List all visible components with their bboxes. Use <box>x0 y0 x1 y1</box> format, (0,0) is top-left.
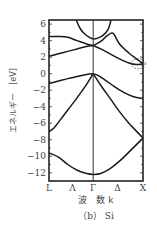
k-point-label: L <box>46 183 52 193</box>
y-tick-label: 0 <box>40 69 46 79</box>
y-tick-label: 2 <box>40 52 46 62</box>
k-point-label: Δ <box>114 183 121 193</box>
y-axis-tick-labels: 6420−2−4−6−8−10−12 <box>27 19 46 178</box>
y-tick-label: 6 <box>40 19 46 29</box>
y-tick-label: −8 <box>33 135 47 145</box>
band-valence-1 <box>49 138 143 174</box>
y-tick-label: −6 <box>33 118 47 128</box>
band-conduction-1 <box>49 46 93 57</box>
y-tick-label: −10 <box>27 151 46 161</box>
y-tick-label: −12 <box>27 168 46 178</box>
y-axis-ticks <box>49 24 143 181</box>
y-tick-label: 4 <box>40 36 46 46</box>
y-tick-label: −2 <box>33 85 46 95</box>
k-point-label: X <box>140 183 147 193</box>
x-axis-label: 波 数 k <box>78 194 114 205</box>
band-conduction-2 <box>49 36 93 45</box>
k-point-label: Λ <box>68 183 76 193</box>
y-axis-label: エネルギー [eV] <box>9 68 18 133</box>
band-valence-3 <box>49 74 93 84</box>
k-point-label: Γ <box>90 183 96 193</box>
k-point-labels: LΛΓΔX <box>46 183 147 193</box>
band-conduction-1-gx <box>93 46 143 65</box>
y-tick-label: −4 <box>33 102 47 112</box>
band-valence-2-gx <box>93 74 143 138</box>
figure-caption: （b） Si <box>78 211 114 221</box>
band-structure-chart: 6420−2−4−6−8−10−12 LΛΓΔX エネルギー [eV] 波 数 … <box>0 0 157 236</box>
band-lines <box>49 20 143 174</box>
